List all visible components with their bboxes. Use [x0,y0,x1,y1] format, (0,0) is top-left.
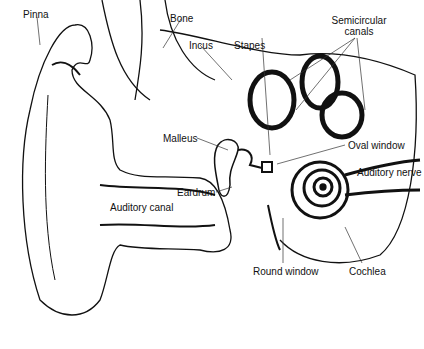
label-malleus: Malleus [163,133,197,144]
label-semicircular-canals-line1: Semicircular [325,15,393,26]
label-eardrum: Eardrum [177,187,215,198]
label-auditory-canal: Auditory canal [110,202,173,213]
semicircular-canal-2 [302,56,338,108]
label-bone: Bone [170,13,193,24]
label-pinna: Pinna [23,9,49,20]
pinna-shape [23,25,231,315]
label-stapes: Stapes [234,40,265,51]
stapes-shape [262,162,272,172]
label-incus: Incus [189,40,213,51]
label-cochlea: Cochlea [349,266,386,277]
label-oval-window: Oval window [348,140,405,151]
incus-shape [238,150,262,168]
label-semicircular-canals-line2: canals [325,26,393,37]
semicircular-canal-3 [322,93,362,137]
malleus-shape [215,140,239,197]
semicircular-canal-1 [250,72,294,128]
label-round-window: Round window [253,266,319,277]
label-semicircular-canals: Semicircular canals [325,15,393,37]
label-auditory-nerve: Auditory nerve [357,167,421,178]
